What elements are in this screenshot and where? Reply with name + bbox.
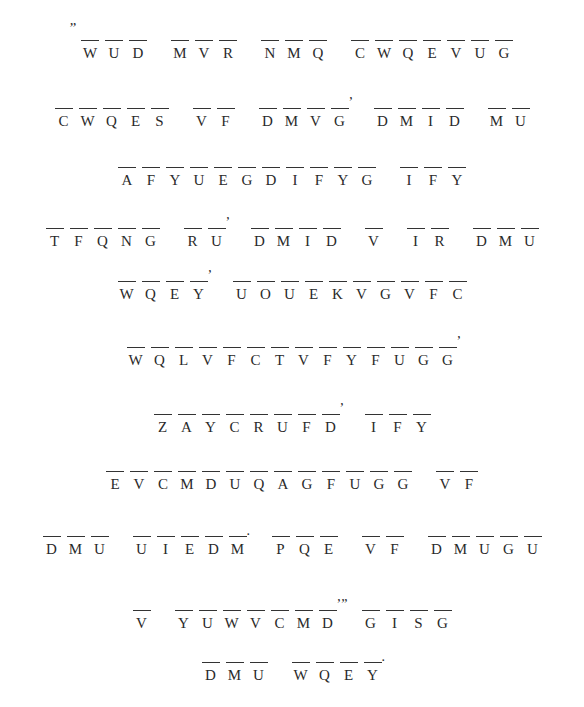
letter-blank[interactable]: S [410, 610, 428, 631]
letter-blank[interactable]: S [151, 108, 169, 129]
letter-blank[interactable]: E [340, 662, 358, 683]
letter-blank[interactable]: T [271, 347, 289, 368]
letter-blank[interactable]: W [127, 347, 145, 368]
letter-blank[interactable]: G [415, 347, 433, 368]
letter-blank[interactable]: E [305, 281, 323, 302]
letter-blank[interactable]: U [512, 108, 530, 129]
letter-blank[interactable]: D [262, 167, 280, 188]
letter-blank[interactable]: I [365, 414, 383, 435]
letter-blank[interactable]: F [389, 414, 407, 435]
letter-blank[interactable]: Y [448, 167, 466, 188]
letter-blank[interactable]: U [346, 471, 364, 492]
letter-blank[interactable]: E [127, 108, 145, 129]
letter-blank[interactable]: Y [334, 167, 352, 188]
letter-blank[interactable]: Y [166, 167, 184, 188]
letter-blank[interactable]: D [205, 536, 223, 557]
letter-blank[interactable]: V [130, 471, 148, 492]
letter-blank[interactable]: D [251, 228, 269, 249]
letter-blank[interactable]: U [199, 610, 217, 631]
letter-blank[interactable]: Q [250, 471, 268, 492]
letter-blank[interactable]: V [295, 347, 313, 368]
letter-blank[interactable]: G [331, 108, 349, 129]
letter-blank[interactable]: U [476, 536, 494, 557]
letter-blank[interactable]: D [374, 108, 392, 129]
letter-blank[interactable]: M [398, 108, 416, 129]
letter-blank[interactable]: R [250, 414, 268, 435]
letter-blank[interactable]: Y [202, 414, 220, 435]
letter-blank[interactable]: D [319, 610, 337, 631]
letter-blank[interactable]: I [299, 228, 317, 249]
letter-blank[interactable]: R [184, 228, 202, 249]
letter-blank[interactable]: M [178, 471, 196, 492]
letter-blank[interactable]: F [142, 167, 160, 188]
letter-blank[interactable]: Q [151, 347, 169, 368]
letter-blank[interactable]: V [365, 228, 383, 249]
letter-blank[interactable]: C [271, 610, 289, 631]
letter-blank[interactable]: V [447, 40, 465, 61]
letter-blank[interactable]: V [247, 610, 265, 631]
letter-blank[interactable]: Q [142, 281, 160, 302]
letter-blank[interactable]: U [208, 228, 226, 249]
letter-blank[interactable]: Q [103, 108, 121, 129]
letter-blank[interactable]: W [223, 610, 241, 631]
letter-blank[interactable]: Q [316, 662, 334, 683]
letter-blank[interactable]: U [233, 281, 251, 302]
letter-blank[interactable]: W [79, 108, 97, 129]
letter-blank[interactable]: M [229, 536, 247, 557]
letter-blank[interactable]: V [133, 610, 151, 631]
letter-blank[interactable]: D [129, 40, 147, 61]
letter-blank[interactable]: U [91, 536, 109, 557]
letter-blank[interactable]: M [283, 108, 301, 129]
letter-blank[interactable]: F [386, 536, 404, 557]
letter-blank[interactable]: R [431, 228, 449, 249]
letter-blank[interactable]: C [247, 347, 265, 368]
letter-blank[interactable]: D [202, 662, 220, 683]
letter-blank[interactable]: F [70, 228, 88, 249]
letter-blank[interactable]: V [401, 281, 419, 302]
letter-blank[interactable]: G [495, 40, 513, 61]
letter-blank[interactable]: Q [296, 536, 314, 557]
letter-blank[interactable]: D [202, 471, 220, 492]
letter-blank[interactable]: D [446, 108, 464, 129]
letter-blank[interactable]: G [298, 471, 316, 492]
letter-blank[interactable]: U [133, 536, 151, 557]
letter-blank[interactable]: U [226, 471, 244, 492]
letter-blank[interactable]: C [449, 281, 467, 302]
letter-blank[interactable]: V [195, 40, 213, 61]
letter-blank[interactable]: I [422, 108, 440, 129]
letter-blank[interactable]: F [425, 281, 443, 302]
letter-blank[interactable]: E [214, 167, 232, 188]
letter-blank[interactable]: V [307, 108, 325, 129]
letter-blank[interactable]: C [351, 40, 369, 61]
letter-blank[interactable]: O [257, 281, 275, 302]
letter-blank[interactable]: A [178, 414, 196, 435]
letter-blank[interactable]: Y [343, 347, 361, 368]
letter-blank[interactable]: M [226, 662, 244, 683]
letter-blank[interactable]: F [217, 108, 235, 129]
letter-blank[interactable]: R [219, 40, 237, 61]
letter-blank[interactable]: M [285, 40, 303, 61]
letter-blank[interactable]: F [460, 471, 478, 492]
letter-blank[interactable]: V [362, 536, 380, 557]
letter-blank[interactable]: D [259, 108, 277, 129]
letter-blank[interactable]: E [320, 536, 338, 557]
letter-blank[interactable]: U [391, 347, 409, 368]
letter-blank[interactable]: L [175, 347, 193, 368]
letter-blank[interactable]: D [428, 536, 446, 557]
letter-blank[interactable]: T [46, 228, 64, 249]
letter-blank[interactable]: Q [399, 40, 417, 61]
letter-blank[interactable]: V [436, 471, 454, 492]
letter-blank[interactable]: N [118, 228, 136, 249]
letter-blank[interactable]: Q [309, 40, 327, 61]
letter-blank[interactable]: D [323, 228, 341, 249]
letter-blank[interactable]: G [358, 167, 376, 188]
letter-blank[interactable]: Q [94, 228, 112, 249]
letter-blank[interactable]: U [105, 40, 123, 61]
letter-blank[interactable]: U [471, 40, 489, 61]
letter-blank[interactable]: U [190, 167, 208, 188]
letter-blank[interactable]: F [310, 167, 328, 188]
letter-blank[interactable]: V [193, 108, 211, 129]
letter-blank[interactable]: I [386, 610, 404, 631]
letter-blank[interactable]: G [394, 471, 412, 492]
letter-blank[interactable]: D [43, 536, 61, 557]
